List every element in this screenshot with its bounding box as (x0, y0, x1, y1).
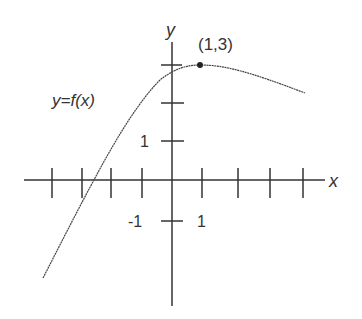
x-axis-label: x (328, 171, 339, 191)
x-tick-label-1: 1 (197, 213, 206, 230)
y-tick-label-neg1: -1 (128, 213, 142, 230)
point-marker (197, 62, 203, 68)
x-ticks (52, 168, 303, 198)
point-label: (1,3) (198, 35, 233, 54)
y-axis-label: y (164, 20, 176, 40)
curve-label: y=f(x) (51, 91, 95, 110)
y-tick-label-1: 1 (140, 133, 149, 150)
graph: y x (1,3) y=f(x) 1 -1 1 (0, 0, 362, 319)
